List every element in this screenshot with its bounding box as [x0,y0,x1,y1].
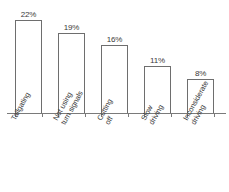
bar-value-label-4: 11% [150,56,165,65]
bar-value-label-5: 8% [195,69,206,78]
x-axis-category-labels: Tailgating Not using turn signals Cuttin… [0,114,229,192]
bar-value-label-1: 22% [21,10,36,19]
bar-value-label-2: 19% [64,23,79,32]
bar-value-label-3: 16% [107,35,122,44]
bar-chart: 22% 19% 16% 11% 8% [0,0,229,192]
